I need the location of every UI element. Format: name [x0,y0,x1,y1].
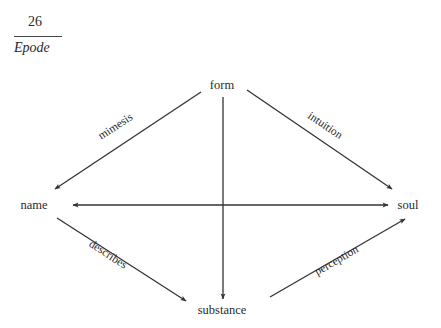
arrow-form-to-soul [247,90,392,189]
node-soul: soul [398,198,419,213]
diagram-arrows [0,0,441,328]
arrow-form-to-name [55,92,201,189]
node-form: form [210,78,234,93]
node-name: name [20,198,47,213]
node-substance: substance [198,303,247,318]
